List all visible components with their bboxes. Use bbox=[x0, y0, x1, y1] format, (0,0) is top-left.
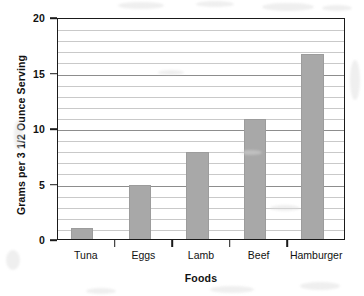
x-tick-label-eggs: Eggs bbox=[131, 249, 155, 261]
y-tick-label-5: 5 bbox=[39, 179, 45, 191]
x-tick-label-tuna: Tuna bbox=[74, 249, 98, 261]
x-tick-mark bbox=[114, 240, 116, 247]
y-tick-mark bbox=[50, 17, 57, 19]
y-tick-label-15: 15 bbox=[33, 68, 45, 80]
y-tick-mark bbox=[50, 239, 57, 241]
y-axis-tick-group: 05101520 bbox=[0, 0, 57, 296]
bar-beef bbox=[244, 119, 266, 239]
y-tick-mark bbox=[50, 73, 57, 75]
y-tick-mark bbox=[50, 128, 57, 130]
bar-chart-figure: Grams per 3 1/2 Ounce Serving 05101520 T… bbox=[0, 0, 364, 296]
x-axis-tick-marks bbox=[57, 240, 345, 248]
x-axis-tick-group: TunaEggsLambBeefHamburger bbox=[57, 249, 345, 265]
y-tick-label-0: 0 bbox=[39, 234, 45, 246]
y-tick-label-10: 10 bbox=[33, 123, 45, 135]
bar-series bbox=[58, 19, 344, 239]
x-tick-mark bbox=[287, 240, 289, 247]
bar-eggs bbox=[129, 185, 151, 239]
x-tick-label-beef: Beef bbox=[248, 249, 270, 261]
plot-area bbox=[57, 18, 345, 240]
x-tick-mark bbox=[229, 240, 231, 247]
bar-lamb bbox=[186, 152, 208, 239]
y-tick-mark bbox=[50, 184, 57, 186]
y-tick-label-20: 20 bbox=[33, 12, 45, 24]
x-tick-mark bbox=[171, 240, 173, 247]
bar-tuna bbox=[71, 228, 93, 239]
x-tick-label-hamburger: Hamburger bbox=[290, 249, 343, 261]
x-tick-label-lamb: Lamb bbox=[188, 249, 214, 261]
bar-hamburger bbox=[301, 54, 323, 239]
x-axis-title: Foods bbox=[57, 272, 345, 284]
